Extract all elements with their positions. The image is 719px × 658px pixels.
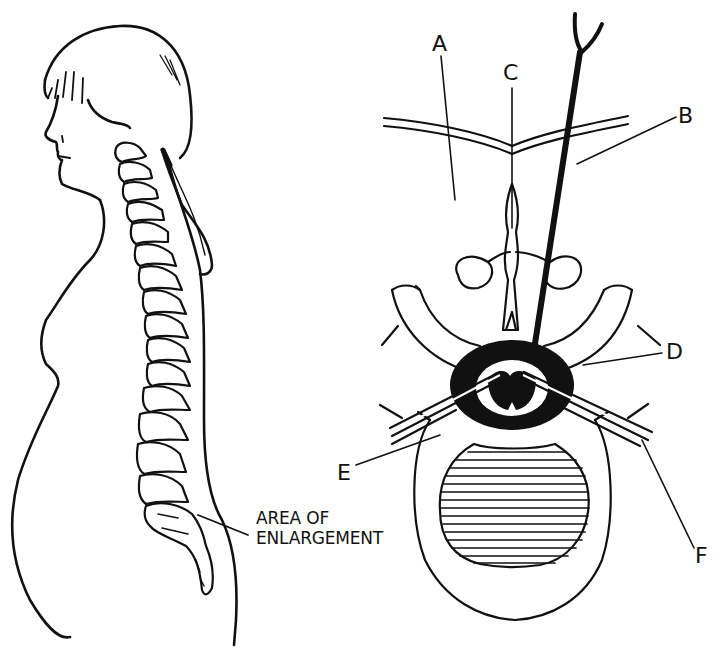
epidural-needle — [534, 14, 602, 350]
caption-line-2: ENLARGEMENT — [256, 528, 383, 548]
dural-sac — [450, 340, 574, 430]
caption-line-1: AREA OF — [256, 508, 383, 528]
area-of-enlargement-caption: AREA OF ENLARGEMENT — [256, 508, 383, 548]
figure-illustration — [0, 0, 719, 658]
label-c: C — [503, 62, 518, 84]
label-leader-lines — [356, 56, 694, 548]
spine — [115, 143, 213, 595]
body-back-outline — [170, 168, 236, 645]
skin-layers — [384, 116, 628, 154]
medical-diagram: AREA OF ENLARGEMENT A C B D E F — [0, 0, 719, 658]
face-profile — [45, 96, 100, 200]
label-e: E — [337, 462, 351, 484]
caption-leader-line — [198, 515, 248, 535]
label-d: D — [666, 341, 683, 363]
spinous-process — [503, 184, 518, 330]
body-front-outline — [12, 200, 104, 637]
head-outline — [44, 26, 191, 158]
label-f: F — [695, 545, 708, 567]
vertebral-body — [414, 412, 610, 620]
body-hatching — [441, 452, 589, 563]
label-b: B — [678, 105, 693, 127]
label-a: A — [432, 33, 447, 55]
